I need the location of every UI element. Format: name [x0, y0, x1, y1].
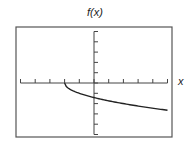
y-axis-title: f(x)	[80, 6, 110, 18]
function-graph	[0, 0, 194, 149]
x-axis-label: x	[178, 75, 184, 87]
function-curve	[65, 83, 168, 110]
y-axis	[94, 32, 98, 135]
